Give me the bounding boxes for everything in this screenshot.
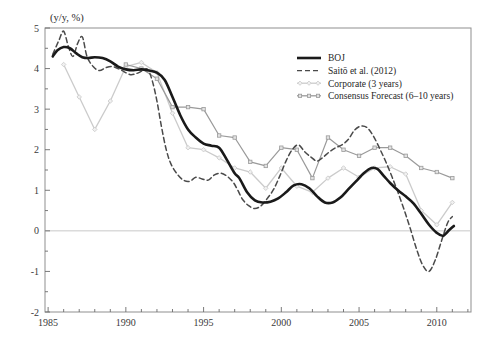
series-marker-3 <box>171 105 174 108</box>
y-axis-tick-label: -1 <box>31 266 39 277</box>
series-marker-3 <box>435 170 438 173</box>
series-marker-3 <box>404 154 407 157</box>
series-marker-3 <box>186 105 189 108</box>
x-axis-tick-label: 1985 <box>38 317 58 328</box>
legend-entry-2: Corporate (3 years) <box>297 79 402 90</box>
series-marker-3 <box>420 166 423 169</box>
series-marker-2 <box>186 145 191 150</box>
y-axis-tick-label: 2 <box>34 144 39 155</box>
series-marker-3 <box>233 136 236 139</box>
legend-label-0: BOJ <box>328 53 345 63</box>
series-marker-3 <box>311 176 314 179</box>
legend-marker-3 <box>298 94 301 97</box>
series-marker-3 <box>342 148 345 151</box>
series-marker-3 <box>357 154 360 157</box>
x-axis-tick-label: 1990 <box>116 317 136 328</box>
series-marker-2 <box>403 172 408 177</box>
y-axis-tick-label: 5 <box>34 23 39 34</box>
series-line-3 <box>126 65 452 179</box>
series-marker-3 <box>124 63 127 66</box>
legend-marker-2 <box>298 81 302 85</box>
legend-entry-3: Consensus Forecast (6–10 years) <box>297 91 453 102</box>
series-marker-2 <box>170 111 175 116</box>
y-axis-tick-label: -2 <box>31 307 39 318</box>
legend-marker-3 <box>316 94 319 97</box>
series-marker-3 <box>295 148 298 151</box>
plot-frame <box>45 28 471 312</box>
series-marker-3 <box>155 77 158 80</box>
y-axis-tick-label: 3 <box>34 104 39 115</box>
x-axis-tick-label: 2005 <box>349 317 369 328</box>
y-axis-title: (y/y, %) <box>50 12 84 24</box>
legend-marker-3 <box>307 94 310 97</box>
series-marker-3 <box>451 176 454 179</box>
series-marker-3 <box>280 146 283 149</box>
legend-label-3: Consensus Forecast (6–10 years) <box>328 91 453 102</box>
series-marker-3 <box>388 146 391 149</box>
chart-container: -2-1012345198519901995200020052010(y/y, … <box>0 0 494 343</box>
series-marker-3 <box>326 136 329 139</box>
series-marker-3 <box>264 164 267 167</box>
x-axis-tick-label: 1995 <box>194 317 214 328</box>
x-axis-tick-label: 2000 <box>271 317 291 328</box>
legend-marker-2 <box>307 81 311 85</box>
y-axis-tick-label: 1 <box>34 185 39 196</box>
series-marker-2 <box>77 95 82 100</box>
legend-entry-1: Saitō et al. (2012) <box>297 66 396 77</box>
legend-label-1: Saitō et al. (2012) <box>328 66 396 77</box>
y-axis-tick-label: 0 <box>34 225 39 236</box>
line-chart: -2-1012345198519901995200020052010(y/y, … <box>0 0 494 343</box>
series-marker-3 <box>202 107 205 110</box>
legend-entry-0: BOJ <box>297 53 345 63</box>
series-marker-3 <box>217 134 220 137</box>
legend-marker-2 <box>316 81 320 85</box>
y-axis-tick-label: 4 <box>34 63 39 74</box>
x-axis-tick-label: 2010 <box>427 317 447 328</box>
series-marker-3 <box>249 160 252 163</box>
series-marker-2 <box>201 147 206 152</box>
legend-label-2: Corporate (3 years) <box>328 79 402 90</box>
series-marker-2 <box>61 62 66 67</box>
series-marker-3 <box>373 146 376 149</box>
